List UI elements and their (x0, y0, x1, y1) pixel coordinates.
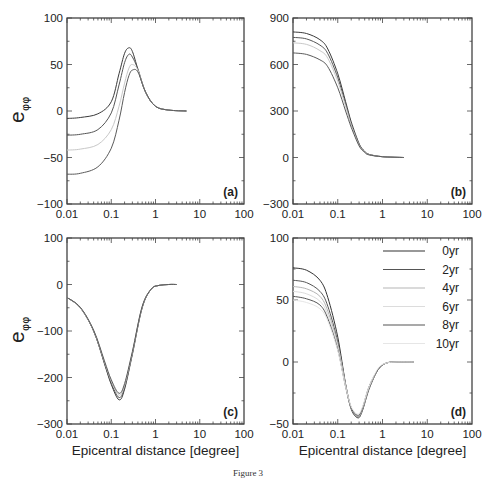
y-tick-label: 0 (57, 105, 63, 117)
x-tick-label: 100 (462, 208, 481, 220)
x-tick-label: 0.1 (103, 428, 119, 440)
svg-text:φφ: φφ (19, 316, 32, 331)
figure-caption: Figure 3 (233, 468, 264, 478)
series-line-curve-4 (293, 53, 404, 158)
x-tick-label: 100 (462, 428, 481, 440)
series-line-6yr (293, 291, 414, 415)
x-tick-label: 10 (193, 208, 206, 220)
x-tick-label: 100 (234, 428, 253, 440)
x-tick-label: 0.1 (330, 428, 346, 440)
legend-label: 0yr (442, 244, 459, 258)
x-tick-label: 1 (379, 208, 385, 220)
y-tick-label: 0 (57, 279, 63, 291)
y-tick-label: 600 (270, 59, 289, 71)
legend-label: 6yr (442, 300, 459, 314)
series-line-10yr (293, 300, 414, 414)
series-line-curve-3 (293, 43, 404, 158)
y-tick-label: −100 (37, 198, 63, 210)
svg-text:e: e (5, 111, 28, 123)
x-tick-label: 100 (234, 208, 253, 220)
series-line-curve-4 (67, 284, 177, 393)
x-tick-label: 1 (152, 428, 158, 440)
panel-label: (a) (223, 185, 238, 199)
plot-frame (67, 18, 244, 204)
x-tick-label: 0.1 (103, 208, 119, 220)
legend-label: 10yr (436, 337, 459, 351)
svg-text:e: e (5, 331, 28, 343)
series-line-curve-4 (67, 69, 186, 174)
series-line-curve-1 (293, 32, 404, 158)
chart-panel-c: 0.010.11101001000−100−200−300(c)eφφEpice… (5, 232, 254, 458)
panel-label: (d) (451, 405, 466, 419)
x-axis-label: Epicentral distance [degree] (72, 443, 239, 458)
y-tick-label: 100 (44, 232, 63, 244)
x-tick-label: 10 (421, 428, 434, 440)
y-tick-label: −300 (37, 418, 63, 430)
series-line-curve-3 (67, 64, 186, 150)
legend: 0yr2yr4yr6yr8yr10yr (383, 244, 459, 351)
y-tick-label: −50 (43, 152, 63, 164)
series-line-curve-1 (67, 284, 177, 399)
y-axis-label: eφφ (5, 316, 32, 343)
svg-text:φφ: φφ (19, 96, 32, 111)
x-tick-label: 1 (379, 428, 385, 440)
x-tick-label: 1 (152, 208, 158, 220)
y-tick-label: −300 (263, 198, 289, 210)
y-tick-label: −50 (269, 418, 289, 430)
y-tick-label: 100 (44, 12, 63, 24)
chart-panel-d: 0.010.1110100100500−50(d)Epicentral dist… (269, 232, 481, 458)
figure-canvas: 0.010.1110100100500−50−100(a)eφφ0.010.11… (0, 0, 496, 484)
x-tick-label: 0.1 (330, 208, 346, 220)
x-axis-label: Epicentral distance [degree] (299, 443, 466, 458)
panel-label: (b) (451, 185, 466, 199)
y-tick-label: 100 (270, 232, 289, 244)
series-line-curve-2 (67, 284, 177, 397)
legend-label: 4yr (442, 281, 459, 295)
x-tick-label: 10 (193, 428, 206, 440)
series-line-8yr (293, 296, 414, 415)
series-line-curve-2 (67, 54, 186, 135)
chart-panel-b: 0.010.11101009006003000−300(b) (263, 12, 482, 220)
legend-label: 8yr (442, 318, 459, 332)
plot-frame (293, 18, 472, 204)
chart-panel-a: 0.010.1110100100500−50−100(a)eφφ (5, 12, 254, 220)
y-tick-label: 0 (283, 356, 289, 368)
y-tick-label: −100 (37, 325, 63, 337)
y-tick-label: 50 (50, 59, 63, 71)
y-tick-label: 900 (270, 12, 289, 24)
y-tick-label: 300 (270, 105, 289, 117)
x-tick-label: 10 (421, 208, 434, 220)
y-tick-label: 0 (283, 152, 289, 164)
y-tick-label: −200 (37, 372, 63, 384)
series-line-curve-3 (67, 284, 177, 395)
y-axis-label: eφφ (5, 96, 32, 123)
y-tick-label: 50 (276, 294, 289, 306)
panel-label: (c) (223, 405, 238, 419)
legend-label: 2yr (442, 263, 459, 277)
